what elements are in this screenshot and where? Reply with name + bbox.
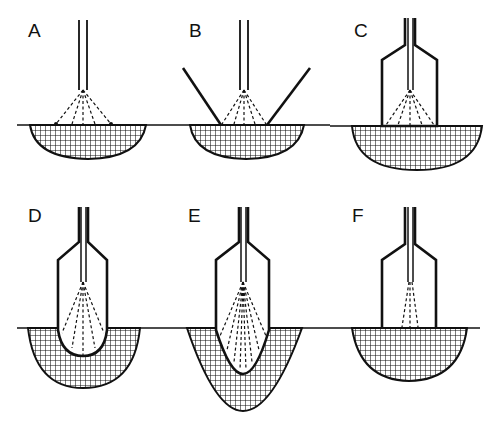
housing-c bbox=[382, 18, 437, 126]
hatched-region-a bbox=[30, 125, 146, 159]
diagram-canvas: A B bbox=[0, 0, 497, 425]
side-wall-left-b bbox=[183, 68, 221, 125]
spray-cone-c bbox=[386, 90, 434, 125]
panel-label-a: A bbox=[28, 20, 41, 41]
panel-c: C bbox=[330, 18, 482, 170]
contact-dot-right-a bbox=[109, 122, 113, 126]
panel-d: D bbox=[17, 205, 170, 388]
spray-cone-b bbox=[222, 90, 266, 124]
spray-cone-f bbox=[402, 282, 418, 327]
panel-label-b: B bbox=[189, 20, 202, 41]
panel-label-f: F bbox=[352, 205, 364, 226]
hatched-region-b bbox=[190, 125, 304, 159]
panel-label-c: C bbox=[354, 20, 368, 41]
housing-f bbox=[382, 207, 436, 328]
hatched-region-f bbox=[352, 328, 467, 381]
spray-cone-a bbox=[56, 90, 111, 124]
hatched-region-c bbox=[352, 126, 482, 170]
panel-label-d: D bbox=[28, 205, 42, 226]
panel-b: B bbox=[170, 20, 330, 159]
nozzle-tube-b bbox=[240, 20, 248, 90]
contact-dot-left-a bbox=[54, 122, 58, 126]
nozzle-tube-f bbox=[408, 207, 413, 282]
panel-a: A bbox=[17, 20, 170, 159]
panel-label-e: E bbox=[188, 205, 201, 226]
housing-e bbox=[216, 207, 269, 374]
nozzle-tube-a bbox=[79, 20, 87, 90]
panel-e: E bbox=[170, 205, 330, 411]
panel-f: F bbox=[330, 205, 480, 381]
nozzle-tube-c bbox=[408, 18, 413, 90]
side-wall-right-b bbox=[267, 68, 310, 125]
